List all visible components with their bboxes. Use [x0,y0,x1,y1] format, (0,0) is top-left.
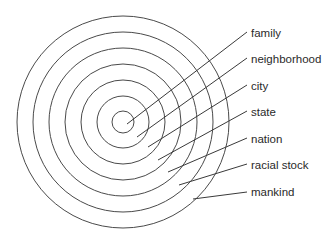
ring-state [65,64,181,180]
label-mankind: mankind [251,185,294,199]
label-state: state [251,105,276,119]
label-nation: nation [251,132,282,146]
leader-line-racial-stock [179,164,247,185]
leader-line-family [127,32,247,124]
ring-neighborhood [97,96,149,148]
rings-group [17,16,229,228]
label-racial-stock: racial stock [251,158,309,172]
ring-city [81,80,165,164]
ring-family [112,111,134,133]
leader-line-state [158,111,247,160]
label-city: city [251,79,268,93]
label-neighborhood: neighborhood [251,52,321,66]
ring-nation [49,48,197,196]
leader-line-neighborhood [137,58,247,137]
label-family: family [251,26,281,40]
leader-line-nation [168,138,247,172]
ring-racial-stock [33,32,213,212]
concentric-circles-diagram [0,0,334,241]
